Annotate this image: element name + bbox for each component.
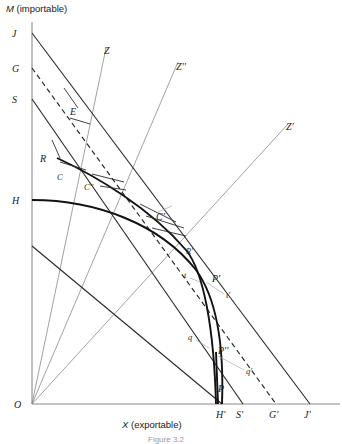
- y-point-label-S: S: [12, 94, 17, 105]
- ray-label-Z: Z: [104, 45, 110, 56]
- production-possibility-curve: [32, 200, 222, 404]
- figure-caption: Figure 3.2: [148, 435, 185, 444]
- tangent-marks-C2: [92, 174, 126, 190]
- y-axis-title-text: (importable): [14, 3, 67, 14]
- point-label-C2: C'': [84, 182, 93, 192]
- figure-container: J G S H O H' S' G' J' Z Z'' Z' E R C C''…: [0, 0, 342, 444]
- point-label-R: R: [39, 153, 46, 164]
- x-axis-title: X (exportable): [121, 419, 182, 430]
- leader-t: [190, 278, 200, 282]
- x-point-label-G-prime: G': [269, 409, 279, 420]
- point-label-P: P: [217, 383, 224, 394]
- trade-indifference-curve: [57, 158, 216, 404]
- point-label-C1: C': [156, 211, 166, 222]
- economics-diagram: J G S H O H' S' G' J' Z Z'' Z' E R C C''…: [0, 0, 342, 444]
- tangent-label-t-prime: t': [226, 290, 230, 300]
- leader-q: [196, 340, 209, 348]
- ray-z1: [32, 124, 288, 404]
- tangent-label-t: t: [184, 270, 187, 280]
- point-label-C: C: [57, 172, 63, 182]
- x-axis-title-text: (exportable): [128, 419, 181, 430]
- y-point-label-J: J: [12, 28, 17, 39]
- y-axis-title: M (importable): [6, 3, 67, 14]
- x-point-label-J-prime: J': [304, 409, 311, 420]
- ray-label-Z2: Z'': [176, 61, 187, 72]
- ray-z: [32, 48, 106, 404]
- y-point-label-G: G: [12, 63, 19, 74]
- price-line-hh: [32, 246, 222, 404]
- x-point-label-H-prime: H': [215, 409, 226, 420]
- price-line-jj: [32, 33, 310, 404]
- tangent-label-q: q: [188, 332, 193, 342]
- point-label-P1: P': [211, 273, 221, 284]
- origin-label: O: [14, 399, 21, 410]
- point-label-R1: R': [185, 246, 193, 256]
- x-point-label-S-prime: S': [236, 409, 244, 420]
- y-point-label-H: H: [11, 195, 20, 206]
- point-label-E: E: [69, 106, 76, 117]
- ray-label-Z1: Z': [286, 121, 295, 132]
- tangent-label-q-prime: q': [246, 366, 252, 376]
- tangent-marks-R: [52, 140, 86, 170]
- point-label-P2: P'': [217, 345, 229, 356]
- y-axis-title-symbol: M: [6, 3, 14, 14]
